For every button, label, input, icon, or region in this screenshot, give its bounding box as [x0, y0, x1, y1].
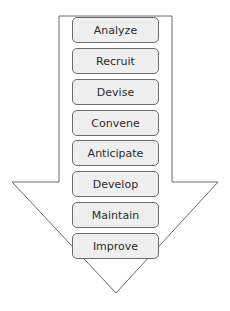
step-anticipate: Anticipate — [72, 140, 159, 166]
step-recruit: Recruit — [72, 48, 159, 74]
step-maintain: Maintain — [72, 202, 159, 228]
step-analyze: Analyze — [72, 17, 159, 43]
process-diagram: Analyze Recruit Devise Convene Anticipat… — [0, 0, 230, 311]
step-develop: Develop — [72, 171, 159, 197]
step-devise: Devise — [72, 79, 159, 105]
step-convene: Convene — [72, 110, 159, 136]
step-improve: Improve — [72, 233, 159, 259]
